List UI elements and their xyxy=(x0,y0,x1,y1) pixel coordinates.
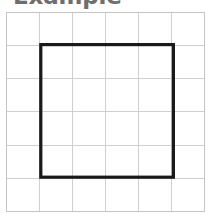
figure-canvas: Example xyxy=(0,0,212,221)
page-title: Example xyxy=(13,0,122,8)
figure-title-clip: Example xyxy=(0,0,212,9)
shape-square-outline xyxy=(41,45,174,178)
grid-container xyxy=(6,12,205,212)
grid-svg xyxy=(6,12,205,212)
